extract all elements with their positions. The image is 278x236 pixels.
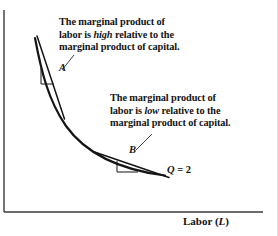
curve-label-value: 2 xyxy=(186,164,191,175)
callout-low-line-1: The marginal product of xyxy=(110,92,231,105)
x-axis-label: Labor (L) xyxy=(183,215,229,227)
callout-low-line-2: labor is low relative to the xyxy=(110,105,231,118)
callout-high-mpl: The marginal product of labor is high re… xyxy=(59,16,180,54)
callout-high-line-1: The marginal product of xyxy=(59,16,180,29)
callout-high-line-3: marginal product of capital. xyxy=(59,41,180,54)
x-axis-label-suffix: ) xyxy=(225,215,229,227)
point-label-b: B xyxy=(129,144,136,155)
callout-high-line-2: labor is high relative to the xyxy=(59,29,180,42)
curve-label-symbol: Q xyxy=(167,164,175,175)
callout-low-mpl: The marginal product of labor is low rel… xyxy=(110,92,231,130)
isoquant-figure: The marginal product of labor is high re… xyxy=(0,0,278,236)
emphasis-high: high xyxy=(93,29,112,40)
curve-label-q: Q = 2 xyxy=(167,164,191,175)
emphasis-low: low xyxy=(144,105,159,116)
callout-low-line-3: marginal product of capital. xyxy=(110,117,231,130)
x-axis-label-prefix: Labor ( xyxy=(183,215,219,227)
leader-line-b xyxy=(136,134,152,150)
curve-label-equals: = xyxy=(175,164,186,175)
point-label-a: A xyxy=(59,62,66,73)
